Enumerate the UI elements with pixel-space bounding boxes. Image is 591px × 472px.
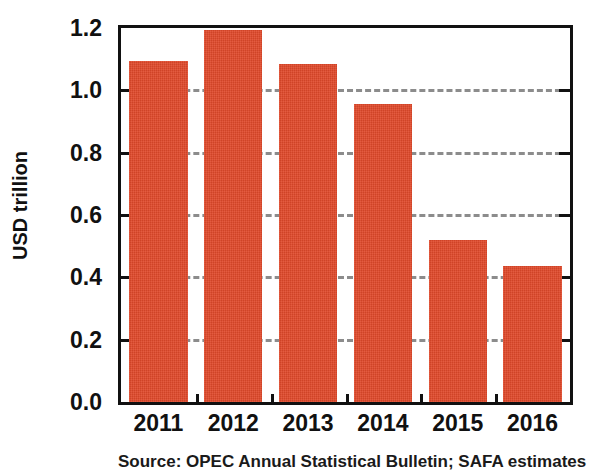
plot-inner (121, 28, 570, 402)
x-tick-label: 2013 (282, 410, 333, 437)
y-axis-tick-labels: 0.00.20.40.60.81.01.2 (38, 0, 110, 430)
y-tick-label: 0.6 (70, 202, 102, 229)
y-tick-label: 0.4 (70, 264, 102, 291)
source-caption: Source: OPEC Annual Statistical Bulletin… (118, 452, 588, 472)
y-tick-label: 0.0 (70, 389, 102, 416)
y-axis-title: USD trillion (0, 0, 40, 410)
x-axis-tick (495, 394, 498, 405)
x-axis-tick (196, 394, 199, 405)
x-tick-label: 2012 (208, 410, 259, 437)
x-tick-label: 2014 (357, 410, 408, 437)
x-axis-tick-labels: 201120122013201420152016 (118, 410, 573, 442)
plot-area (118, 25, 573, 405)
x-tick-label: 2011 (133, 410, 183, 437)
bar (503, 266, 561, 402)
x-axis-tick (420, 394, 423, 405)
bar (354, 104, 412, 402)
y-axis-title-label: USD trillion (9, 151, 32, 260)
y-tick-label: 0.8 (70, 139, 102, 166)
bar-series (121, 28, 570, 402)
bar (129, 61, 187, 402)
bar (204, 30, 262, 402)
y-tick-label: 1.2 (70, 15, 102, 42)
bar-chart-figure: USD trillion 0.00.20.40.60.81.01.2 20112… (0, 0, 591, 472)
bar (429, 240, 487, 402)
x-axis-tick (271, 394, 274, 405)
x-tick-label: 2015 (432, 410, 483, 437)
bar (279, 64, 337, 402)
y-tick-label: 0.2 (70, 326, 102, 353)
x-tick-label: 2016 (507, 410, 558, 437)
x-axis-tick (346, 394, 349, 405)
y-tick-label: 1.0 (70, 77, 102, 104)
